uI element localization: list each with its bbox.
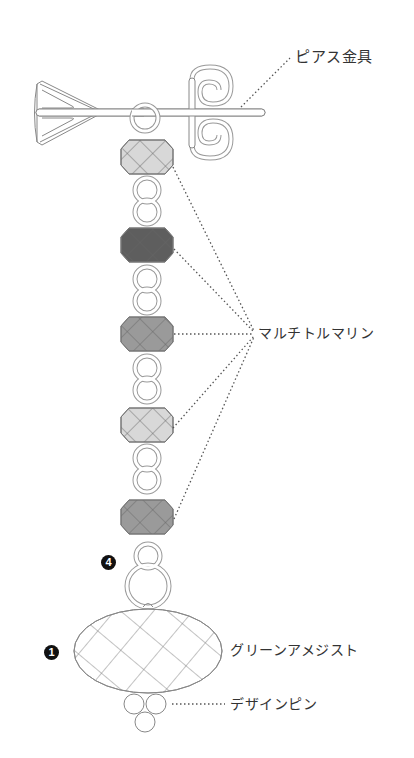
bead-1 <box>121 140 173 174</box>
leader-lines <box>172 58 290 704</box>
step-badge-4: 4 <box>101 555 116 570</box>
bead-4 <box>121 408 173 442</box>
bead-2 <box>121 228 173 262</box>
label-earring-fitting: ピアス金具 <box>295 50 373 65</box>
label-design-pin: デザインピン <box>230 697 317 711</box>
design-pin <box>124 694 166 732</box>
step-badge-1: 1 <box>44 645 59 660</box>
label-multi-tourmaline: マルチトルマリン <box>258 326 374 340</box>
green-amethyst <box>74 604 222 694</box>
bead-3 <box>121 317 173 351</box>
label-green-amethyst: グリーンアメジスト <box>230 643 359 657</box>
bead-5 <box>121 500 173 534</box>
